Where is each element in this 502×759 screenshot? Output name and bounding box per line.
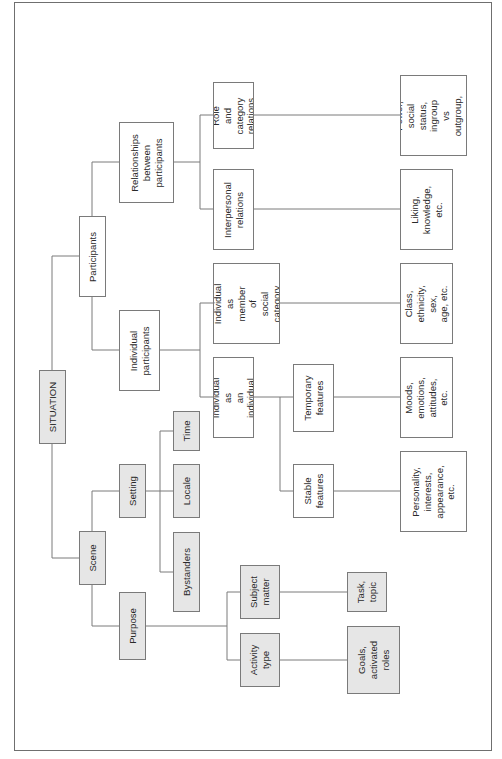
node-label: Class, ethnicity, sex, age, etc. (403, 285, 450, 322)
node-label: SITUATION (47, 382, 59, 432)
node-class: Class, ethnicity, sex, age, etc. (400, 263, 453, 344)
node-label: Bystanders (181, 548, 193, 596)
node-setting: Setting (119, 464, 146, 518)
node-label: Stable features (302, 474, 326, 509)
node-situation: SITUATION (39, 370, 66, 444)
node-relationships: Relationships between participants (119, 122, 174, 203)
node-personality: Personality, interests, appearance, etc. (400, 451, 467, 532)
node-as-individual: Individual as an individual (213, 357, 254, 438)
node-label: Moods, emotions, attitudes, etc. (403, 377, 450, 419)
node-liking: Liking, knowledge, etc. (400, 169, 453, 250)
node-time: Time (173, 411, 200, 451)
node-label: Scene (87, 544, 99, 571)
node-label: Personality, interests, appearance, etc. (410, 465, 457, 518)
node-label: Liking, knowledge, etc. (409, 185, 444, 234)
node-task-topic: Task, topic (347, 572, 387, 612)
node-label: Goals, activated roles (356, 641, 391, 679)
node-moods: Moods, emotions, attitudes, etc. (400, 357, 453, 438)
node-label: Power, social status, ingroup vs outgrou… (400, 95, 467, 136)
node-label: Individual as member of social category (213, 283, 280, 324)
node-label: Interpersonal relations (222, 182, 246, 238)
node-label: Individual as an individual (213, 377, 254, 418)
node-temporary-features: Temporary features (293, 364, 334, 432)
node-label: Individual participants (128, 326, 152, 375)
node-locale: Locale (173, 464, 200, 518)
node-participants: Participants (79, 216, 106, 297)
node-label: Locale (181, 477, 193, 505)
node-stable-features: Stable features (293, 464, 334, 518)
node-role-category: Role and category relations (213, 82, 254, 149)
node-label: Activity type (248, 645, 272, 675)
node-label: Time (181, 421, 193, 442)
node-label: Purpose (127, 608, 139, 644)
node-subject-matter: Subject matter (240, 565, 280, 619)
node-label: Subject matter (248, 576, 272, 608)
node-label: Task, topic (355, 581, 379, 603)
node-activity-type: Activity type (240, 633, 280, 687)
node-goals: Goals, activated roles (347, 626, 400, 694)
node-label: Relationships between participants (129, 134, 164, 192)
node-bystanders: Bystanders (173, 532, 200, 612)
node-label: Temporary features (302, 375, 326, 420)
node-interpersonal: Interpersonal relations (213, 169, 254, 250)
node-label: Participants (87, 231, 99, 281)
node-label: Role and category relations (213, 97, 254, 134)
node-label: Setting (127, 476, 139, 506)
node-member-social-category: Individual as member of social category (213, 263, 280, 344)
node-purpose: Purpose (119, 592, 146, 660)
node-individual-participants: Individual participants (119, 310, 160, 391)
node-scene: Scene (79, 531, 106, 585)
node-power: Power, social status, ingroup vs outgrou… (400, 75, 467, 156)
